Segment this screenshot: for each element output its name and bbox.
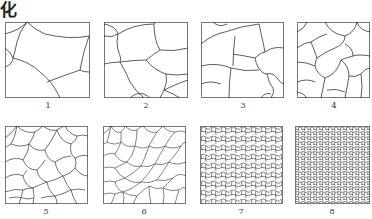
- grain-structure-1: [5, 22, 90, 98]
- grain-panel-4: [297, 22, 370, 98]
- panel-label-6: 6: [134, 207, 154, 216]
- grain-panel-8: [295, 126, 370, 204]
- grain-structure-7: [200, 126, 283, 204]
- grain-panel-1: [5, 22, 90, 98]
- grain-panel-2: [104, 22, 188, 98]
- panel-label-8: 8: [322, 207, 342, 216]
- panel-label-7: 7: [231, 207, 251, 216]
- grain-structure-4: [297, 22, 370, 98]
- grain-structure-2: [104, 22, 188, 98]
- panel-label-1: 1: [38, 101, 58, 110]
- grain-panel-7: [200, 126, 283, 204]
- grain-structure-5: [5, 126, 88, 204]
- panel-label-3: 3: [233, 101, 253, 110]
- grain-panel-3: [201, 22, 284, 98]
- panel-label-5: 5: [36, 207, 56, 216]
- panel-label-2: 2: [136, 101, 156, 110]
- grain-structure-6: [103, 126, 186, 204]
- panel-label-4: 4: [324, 101, 344, 110]
- grain-panel-5: [5, 126, 88, 204]
- grain-structure-3: [201, 22, 284, 98]
- grain-panel-6: [103, 126, 186, 204]
- figure-title-fragment: 化: [0, 0, 17, 21]
- grain-structure-8: [295, 126, 370, 204]
